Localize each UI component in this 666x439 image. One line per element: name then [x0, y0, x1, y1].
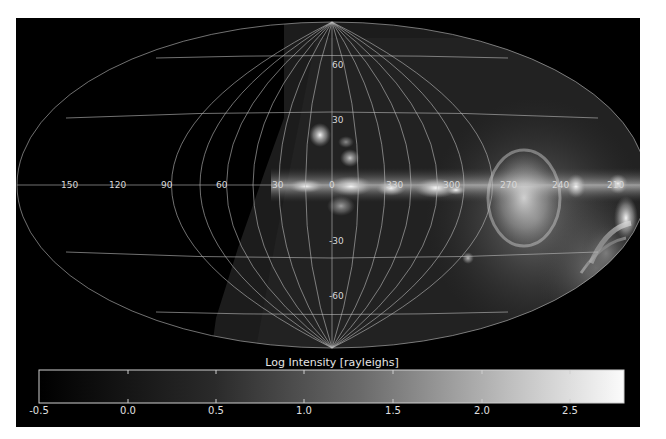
- lat-label-30: 30: [332, 115, 344, 125]
- lat-label-m30: -30: [329, 236, 344, 246]
- colorbar-gradient: [39, 370, 624, 403]
- lon-label-0: 0: [329, 180, 335, 190]
- colorbar-tick-label: -0.5: [29, 405, 49, 416]
- lon-label-240: 240: [552, 180, 569, 190]
- lon-label-120: 120: [109, 180, 126, 190]
- colorbar-title: Log Intensity [rayleighs]: [265, 356, 398, 369]
- colorbar-tick-label: 0.5: [208, 405, 224, 416]
- colorbar: Log Intensity [rayleighs] -0.5 0.0 0.5 1…: [29, 356, 624, 416]
- lon-label-270: 270: [500, 180, 517, 190]
- sky-map-frame: 150 120 90 60 30 0 330 300 270 240 210 6…: [16, 18, 640, 427]
- lon-label-210: 210: [607, 180, 624, 190]
- lon-label-90: 90: [161, 180, 173, 190]
- lon-label-300: 300: [443, 180, 460, 190]
- lon-label-330: 330: [386, 180, 403, 190]
- lon-label-60: 60: [216, 180, 228, 190]
- colorbar-tick-label: 2.0: [474, 405, 490, 416]
- colorbar-tick-label: 1.5: [385, 405, 401, 416]
- colorbar-tick-label: 1.0: [296, 405, 312, 416]
- lon-label-150: 150: [61, 180, 78, 190]
- lat-label-m60: -60: [329, 291, 344, 301]
- lat-label-60: 60: [332, 60, 344, 70]
- colorbar-tick-label: 2.5: [562, 405, 578, 416]
- lon-label-30: 30: [272, 180, 284, 190]
- sky-map: 150 120 90 60 30 0 330 300 270 240 210 6…: [16, 18, 640, 427]
- colorbar-tick-label: 0.0: [120, 405, 136, 416]
